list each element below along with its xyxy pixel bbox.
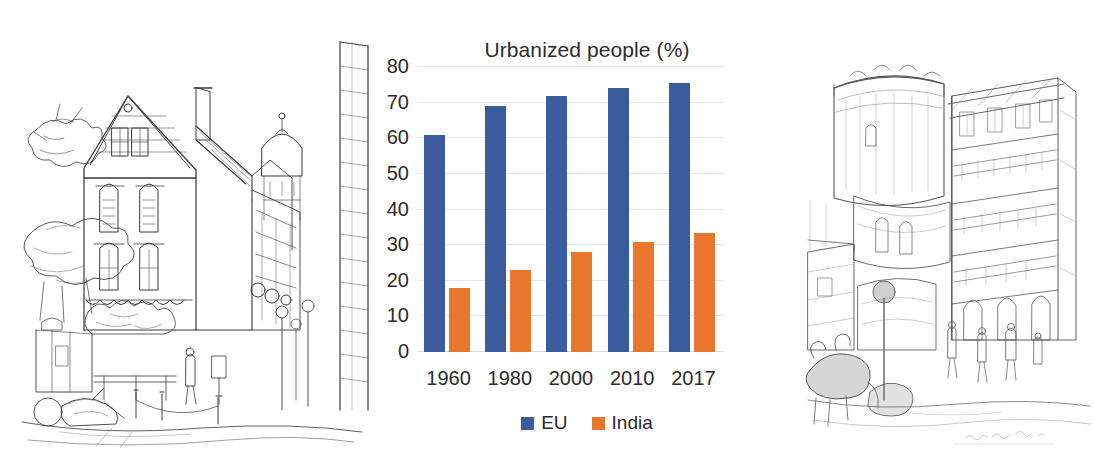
bar-india-1980 [510, 270, 531, 352]
legend-swatch-eu [521, 417, 534, 430]
bar-india-1960 [449, 288, 470, 352]
x-axis-tick-1980: 1980 [479, 367, 540, 390]
y-axis-tick-20: 20 [387, 268, 409, 291]
signature [954, 431, 1054, 444]
bar-chart: Urbanized people (%) 80706050403020100 1… [372, 0, 802, 465]
european-street-sketch [0, 0, 372, 465]
y-axis-tick-80: 80 [387, 55, 409, 78]
bar-eu-1980 [485, 106, 506, 352]
legend-label-eu: EU [541, 412, 567, 434]
chart-legend: EUIndia [372, 412, 802, 434]
bar-eu-2000 [546, 96, 567, 353]
x-axis-tick-2000: 2000 [540, 367, 601, 390]
bar-group-1980: 1980 [479, 67, 540, 352]
y-axis-tick-30: 30 [387, 233, 409, 256]
indian-street-sketch [802, 0, 1095, 465]
y-axis-tick-60: 60 [387, 126, 409, 149]
legend-entry-india: India [592, 412, 653, 434]
x-axis-tick-1960: 1960 [418, 367, 479, 390]
x-axis-tick-2017: 2017 [663, 367, 724, 390]
bar-india-2000 [571, 252, 592, 352]
bar-india-2010 [633, 242, 654, 352]
figure-root: Urbanized people (%) 80706050403020100 1… [0, 0, 1095, 465]
plot-area: 80706050403020100 19601980200020102017 [418, 67, 724, 352]
bar-eu-1960 [424, 135, 445, 352]
legend-swatch-india [592, 417, 605, 430]
legend-entry-eu: EU [521, 412, 567, 434]
bar-group-1960: 1960 [418, 67, 479, 352]
bar-group-2010: 2010 [602, 67, 663, 352]
bar-india-2017 [694, 233, 715, 352]
y-axis-tick-10: 10 [387, 304, 409, 327]
x-axis-tick-2010: 2010 [602, 367, 663, 390]
legend-label-india: India [612, 412, 653, 434]
bar-group-2017: 2017 [663, 67, 724, 352]
y-axis-tick-40: 40 [387, 197, 409, 220]
bar-eu-2017 [669, 83, 690, 352]
chart-title: Urbanized people (%) [372, 38, 802, 62]
bars-layer: 19601980200020102017 [418, 67, 724, 352]
indian-street-sketch-drawing [802, 0, 1095, 465]
bar-group-2000: 2000 [540, 67, 601, 352]
y-axis-tick-0: 0 [398, 340, 409, 363]
bar-eu-2010 [608, 88, 629, 352]
y-axis-tick-70: 70 [387, 90, 409, 113]
european-street-sketch-drawing [0, 0, 372, 465]
y-axis-tick-50: 50 [387, 161, 409, 184]
